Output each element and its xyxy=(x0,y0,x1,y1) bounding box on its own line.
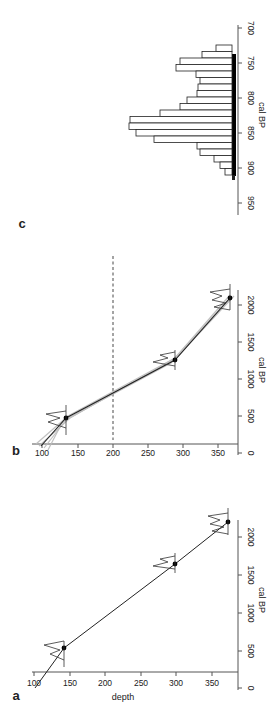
panel-b-ytick: 200 xyxy=(106,448,120,458)
panel-c-xtick: 900 xyxy=(246,161,256,175)
panel-b-xtick: 1000 xyxy=(246,370,256,389)
panel-a-calib-curve xyxy=(208,513,228,534)
panel-b-ytick: 100 xyxy=(35,448,49,458)
panel-a-ytick: 300 xyxy=(169,678,183,688)
panel-b-xtick: 500 xyxy=(246,409,256,423)
panel-b-model-line xyxy=(41,298,230,446)
panel-a-ylabel: depth xyxy=(112,692,135,702)
panel-c-xtick: 950 xyxy=(246,196,256,210)
panel-a-ytick: 150 xyxy=(63,678,77,688)
panel-b-xtick: 2000 xyxy=(246,296,256,315)
panel-a-calbp-ticks xyxy=(238,537,242,688)
panel-c: c 700 750 800 850 900 950 cal BP xyxy=(18,21,267,231)
panel-b-ytick: 150 xyxy=(71,448,85,458)
panel-b-ytick: 300 xyxy=(176,448,190,458)
panel-b-depth-ticks xyxy=(42,444,218,448)
panel-b-calib-curve xyxy=(153,352,175,366)
panel-c-calbp-ticks xyxy=(238,28,242,203)
panel-a-depth-ticks xyxy=(34,672,212,676)
panel-b-xlabel: cal BP xyxy=(257,357,267,383)
panel-b: b 100 150 200 250 300 350 2000 1500 1000… xyxy=(12,256,267,458)
panel-b-xtick: 0 xyxy=(246,451,256,456)
panel-c-xtick: 750 xyxy=(246,56,256,70)
panel-a-xtick: 2000 xyxy=(246,528,256,547)
panel-a-xtick: 1500 xyxy=(246,566,256,585)
panel-c-hist-tail xyxy=(232,175,235,180)
panel-a-xtick: 500 xyxy=(246,644,256,658)
panel-c-hpd-bar xyxy=(232,54,236,176)
panel-a: a 100 150 200 250 300 350 depth 2000 150… xyxy=(12,508,267,703)
panel-a-ytick: 200 xyxy=(98,678,112,688)
panel-c-xtick: 850 xyxy=(246,126,256,140)
panel-c-label: c xyxy=(18,216,25,231)
panel-a-ytick: 350 xyxy=(205,678,219,688)
panel-a-calib-curve xyxy=(44,641,64,660)
panel-c-xlabel: cal BP xyxy=(257,102,267,128)
panel-b-label: b xyxy=(12,443,20,458)
panel-b-calib-curve xyxy=(46,411,66,428)
figure-canvas: a 100 150 200 250 300 350 depth 2000 150… xyxy=(0,0,268,709)
panel-c-histogram xyxy=(129,45,232,175)
panel-c-xtick: 800 xyxy=(246,91,256,105)
panel-b-calbp-ticks xyxy=(238,305,242,453)
panel-a-xtick: 0 xyxy=(246,686,256,691)
panel-b-xtick: 1500 xyxy=(246,333,256,352)
panel-a-label: a xyxy=(12,688,20,703)
figure-stage: a 100 150 200 250 300 350 depth 2000 150… xyxy=(0,0,268,709)
panel-a-xtick: 1000 xyxy=(246,604,256,623)
panel-b-ytick: 250 xyxy=(141,448,155,458)
panel-c-xtick: 700 xyxy=(246,21,256,35)
panel-a-xlabel: cal BP xyxy=(257,587,267,613)
panel-a-ytick: 250 xyxy=(134,678,148,688)
panel-b-ytick: 350 xyxy=(211,448,225,458)
